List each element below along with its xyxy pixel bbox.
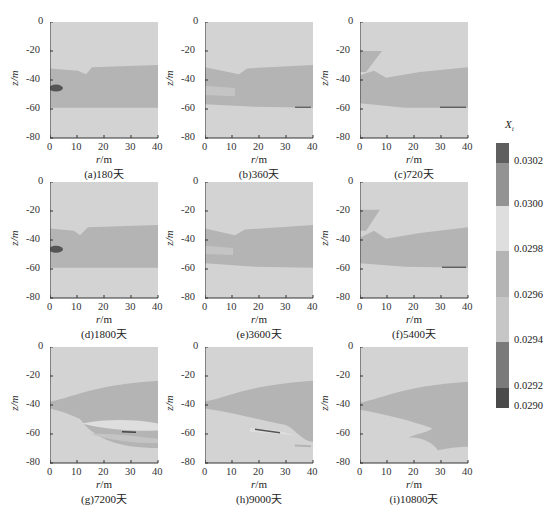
x-tick-label: 0 (47, 301, 52, 312)
x-tick-label: 10 (381, 466, 392, 477)
colorbar-band (496, 251, 509, 297)
x-tick-label: 0 (47, 466, 52, 477)
y-tick-label: -20 (181, 369, 195, 380)
y-tick-label: -20 (336, 369, 350, 380)
colorbar-tick-label: 0.0300 (514, 198, 543, 209)
x-tick-label: 0 (202, 466, 207, 477)
colorbar-tick-label: 0.0296 (514, 289, 543, 300)
x-axis-label: r/m (354, 478, 474, 490)
subplot-caption: (b)360天 (199, 165, 319, 181)
x-tick-label: 10 (381, 301, 392, 312)
x-tick-label: 30 (280, 466, 291, 477)
y-tick-label: -40 (336, 398, 350, 409)
y-axis-label: z/m (8, 395, 20, 410)
subplot-caption: (c)720天 (354, 165, 474, 181)
x-tick-label: 40 (462, 301, 473, 312)
x-tick-label: 40 (462, 466, 473, 477)
y-tick-label: -20 (181, 44, 195, 55)
y-tick-label: 0 (193, 340, 198, 351)
x-axis-label: r/m (199, 478, 319, 490)
x-tick-label: 40 (152, 301, 163, 312)
y-tick-label: 0 (38, 175, 43, 186)
y-tick-label: -60 (181, 262, 195, 273)
contour-plot (360, 182, 472, 302)
x-tick-label: 10 (71, 141, 82, 152)
subplot-caption: (h)9000天 (199, 490, 319, 506)
y-tick-label: -80 (26, 291, 40, 302)
contour-plot (205, 182, 317, 302)
x-tick-label: 30 (125, 141, 136, 152)
y-tick-label: -20 (336, 204, 350, 215)
y-tick-label: -40 (181, 398, 195, 409)
x-tick-label: 20 (408, 466, 419, 477)
contour-plot (50, 347, 162, 467)
x-tick-label: 20 (408, 141, 419, 152)
x-tick-label: 30 (435, 466, 446, 477)
x-tick-label: 40 (152, 141, 163, 152)
subplot-caption: (e)3600天 (199, 325, 319, 341)
x-tick-label: 0 (202, 141, 207, 152)
subplot-caption: (d)1800天 (44, 325, 164, 341)
y-tick-label: -40 (181, 73, 195, 84)
x-tick-label: 40 (307, 301, 318, 312)
y-axis-label: z/m (163, 395, 175, 410)
subplot-caption: (i)10800天 (354, 490, 474, 506)
y-tick-label: -60 (336, 427, 350, 438)
colorbar-tick-label: 0.0294 (514, 334, 543, 345)
colorbar-tick-label: 0.0292 (514, 380, 543, 391)
x-tick-label: 20 (253, 141, 264, 152)
x-axis-label: r/m (44, 153, 164, 165)
colorbar-band (496, 297, 509, 342)
contour-plot (205, 22, 317, 142)
y-tick-label: -60 (336, 102, 350, 113)
x-tick-label: 30 (125, 466, 136, 477)
x-tick-label: 20 (98, 301, 109, 312)
x-tick-label: 10 (71, 466, 82, 477)
y-tick-label: 0 (193, 15, 198, 26)
y-tick-label: -20 (26, 44, 40, 55)
x-tick-label: 30 (280, 141, 291, 152)
y-tick-label: -60 (181, 102, 195, 113)
subplot-caption: (g)7200天 (44, 490, 164, 506)
colorbar-band (496, 163, 509, 206)
y-tick-label: -80 (336, 131, 350, 142)
y-axis-label: z/m (163, 230, 175, 245)
x-tick-label: 10 (381, 141, 392, 152)
y-tick-label: -20 (181, 204, 195, 215)
x-tick-label: 20 (253, 301, 264, 312)
colorbar-tick-label: 0.0302 (514, 155, 543, 166)
y-tick-label: -20 (336, 44, 350, 55)
contour-plot (50, 22, 162, 142)
x-tick-label: 0 (357, 301, 362, 312)
x-tick-label: 30 (125, 301, 136, 312)
x-tick-label: 0 (47, 141, 52, 152)
y-tick-label: 0 (348, 340, 353, 351)
contour-plot (50, 182, 162, 302)
x-tick-label: 30 (280, 301, 291, 312)
x-tick-label: 20 (253, 466, 264, 477)
y-tick-label: -40 (336, 73, 350, 84)
x-axis-label: r/m (354, 153, 474, 165)
y-tick-label: -80 (181, 291, 195, 302)
x-axis-label: r/m (354, 313, 474, 325)
contour-plot (205, 347, 317, 467)
x-axis-label: r/m (199, 153, 319, 165)
x-tick-label: 30 (435, 301, 446, 312)
contour-plot (360, 347, 472, 467)
x-tick-label: 20 (408, 301, 419, 312)
x-axis-label: r/m (44, 313, 164, 325)
y-axis-label: z/m (318, 230, 330, 245)
y-tick-label: -40 (336, 233, 350, 244)
x-tick-label: 0 (357, 466, 362, 477)
y-tick-label: -40 (181, 233, 195, 244)
y-tick-label: 0 (193, 175, 198, 186)
x-tick-label: 0 (202, 301, 207, 312)
y-axis-label: z/m (8, 230, 20, 245)
x-tick-label: 10 (226, 301, 237, 312)
colorbar-band (496, 388, 509, 408)
colorbar-band (496, 143, 509, 163)
colorbar-tick-label: 0.0290 (514, 400, 543, 411)
y-tick-label: 0 (348, 15, 353, 26)
x-tick-label: 10 (226, 141, 237, 152)
x-tick-label: 20 (98, 466, 109, 477)
